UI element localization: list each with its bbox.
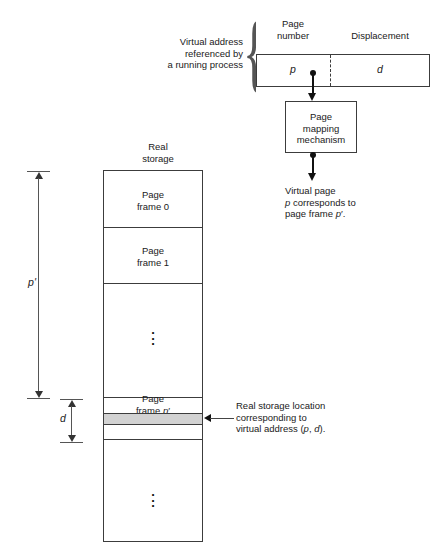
- arrow-mapping-to-result-icon: [307, 152, 318, 181]
- dimension-label-d: d: [54, 413, 72, 425]
- mapping-result-caption: Virtual pagep corresponds topage frame p…: [285, 185, 435, 220]
- real-storage-title: Real storage: [103, 141, 213, 164]
- address-field-value-d: d: [330, 64, 430, 76]
- virtual-address-side-label: Virtual addressreferenced bya running pr…: [151, 36, 243, 71]
- real-storage-target-band: [104, 413, 202, 425]
- page-frame-1-label: Pageframe 1: [104, 245, 202, 268]
- band-callout-text: Real storage locationcorresponding tovir…: [236, 400, 366, 435]
- arrow-address-to-mapping-icon: [307, 70, 318, 101]
- dimension-arrowhead-bottom-icon: [35, 391, 43, 398]
- brace-glyph: {: [243, 18, 250, 95]
- frame-divider: [104, 227, 202, 228]
- field-header-displacement: Displacement: [330, 30, 430, 42]
- arrow-stem: [312, 74, 314, 94]
- dimension-cap-bottom: [27, 398, 50, 399]
- virtual-address-brace: {: [243, 18, 256, 104]
- arrow-head: [308, 173, 316, 181]
- band-callout-line: [210, 418, 234, 419]
- page-frame-0-label: Pageframe 0: [104, 189, 202, 212]
- dimension-arrowhead-bottom-icon: [68, 435, 76, 442]
- arrow-stem: [312, 156, 314, 174]
- frames-ellipsis-lower: ...: [104, 489, 202, 506]
- frames-ellipsis-upper: ...: [104, 327, 202, 344]
- field-header-page-number: Page number: [256, 18, 330, 41]
- real-storage-column: Pageframe 0 Pageframe 1 ... Pageframe p′…: [103, 170, 203, 542]
- dimension-cap-bottom: [60, 442, 83, 443]
- address-field-value-p: p: [256, 64, 330, 76]
- page-mapping-mechanism-label: Pagemappingmechanism: [285, 111, 357, 146]
- dimension-label-p-prime: p': [22, 277, 42, 289]
- frame-divider: [104, 439, 202, 440]
- arrow-head: [308, 93, 316, 101]
- frame-divider: [104, 283, 202, 284]
